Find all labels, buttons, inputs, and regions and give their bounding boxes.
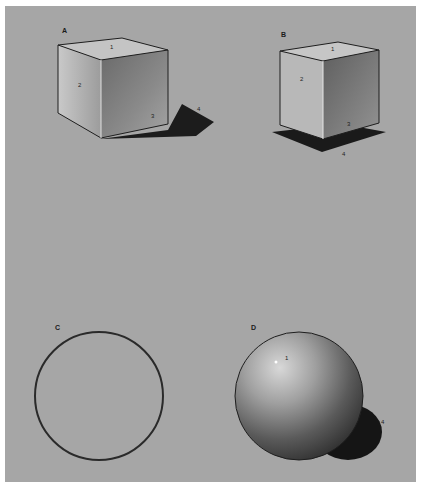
cube-a-top-number: 1 — [110, 44, 113, 50]
cube-a-shadow-number: 4 — [197, 106, 200, 112]
cube-a — [58, 38, 214, 139]
cube-b-left-number: 2 — [300, 76, 303, 82]
cube-b-top-number: 1 — [331, 46, 334, 52]
cube-b-shadow-number: 4 — [342, 151, 345, 157]
figure-label-a: A — [62, 27, 67, 34]
figure-label-c: C — [55, 324, 60, 331]
sphere-d-highlight-number: 1 — [285, 355, 288, 361]
sphere-d — [235, 332, 382, 460]
cube-a-left-number: 2 — [78, 82, 81, 88]
drawing-canvas — [0, 0, 427, 486]
circle-c — [35, 332, 163, 460]
sphere-d-shadow-number: 4 — [381, 419, 384, 425]
cube-b-right-number: 3 — [347, 121, 350, 127]
cube-b — [272, 42, 386, 152]
cube-a-right-number: 3 — [151, 113, 154, 119]
figure-label-d: D — [251, 324, 256, 331]
figure-label-b: B — [281, 31, 286, 38]
